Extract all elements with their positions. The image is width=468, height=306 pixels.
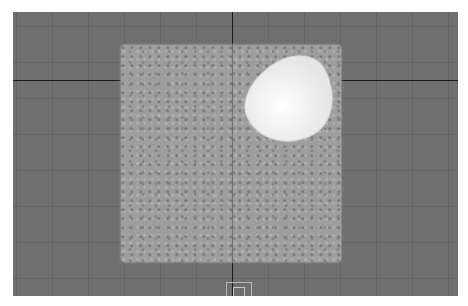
3d-viewport[interactable] (13, 12, 458, 296)
axis-overlay (232, 45, 233, 262)
camera-gizmo-icon[interactable] (226, 282, 252, 296)
